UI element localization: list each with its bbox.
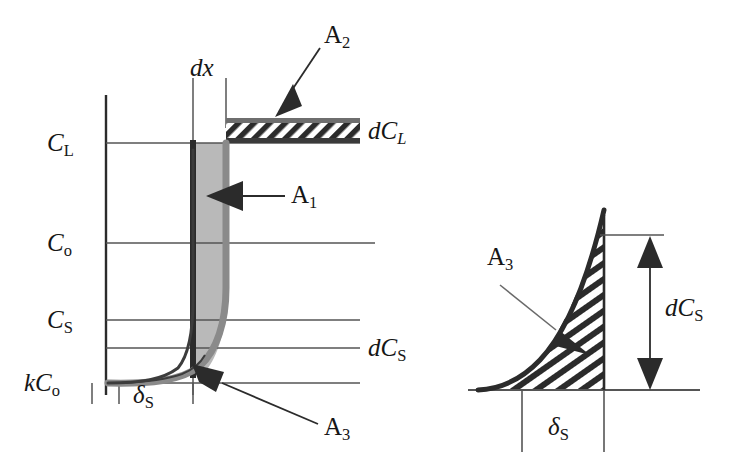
diagram-canvas (0, 0, 731, 472)
label-dCL: dCL (368, 118, 406, 147)
figure-root: CL Co CS kCo dCL dCS dx δS A1 A2 A3 A3 d… (0, 0, 731, 472)
axis-label-CL: CL (47, 130, 74, 159)
area-a2-bar (226, 118, 360, 143)
label-A3-main: A3 (324, 414, 350, 443)
label-A2: A2 (324, 22, 350, 51)
inset-dcs-dimension-arrow (637, 236, 663, 390)
label-dCS: dCS (368, 335, 406, 364)
axis-label-kCo: kCo (24, 370, 60, 399)
area-a2-leader (275, 48, 320, 117)
label-dCS-inset: dCS (665, 295, 703, 324)
axis-label-CS: CS (47, 307, 73, 336)
label-A1: A1 (291, 182, 317, 211)
label-A3-inset: A3 (487, 244, 513, 273)
area-a3-leader-main (192, 364, 318, 424)
label-delta-S-inset: δS (548, 414, 569, 443)
axis-label-Co: Co (47, 230, 72, 259)
label-delta-S-main: δS (133, 382, 154, 411)
label-dx: dx (190, 55, 214, 80)
